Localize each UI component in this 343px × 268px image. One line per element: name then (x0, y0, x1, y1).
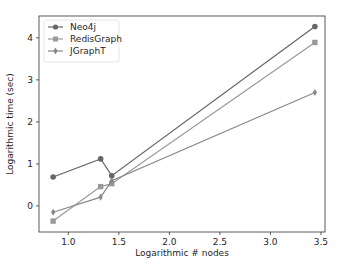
data-point (50, 174, 56, 180)
legend-label-redisgraph: RedisGraph (70, 34, 122, 44)
data-point (98, 184, 103, 189)
legend-label-neo4j: Neo4j (70, 22, 96, 32)
y-axis: 01234 (27, 33, 39, 211)
y-tick-label: 2 (27, 117, 33, 127)
line-chart: 1.01.52.02.53.03.5 01234 Logarithmic # n… (0, 0, 343, 268)
y-tick-label: 1 (27, 159, 33, 169)
x-tick-label: 2.0 (162, 237, 177, 247)
x-tick-label: 1.5 (112, 237, 126, 247)
x-axis-label: Logarithmic # nodes (135, 248, 229, 258)
x-tick-label: 2.5 (213, 237, 227, 247)
x-tick-label: 3.5 (314, 237, 328, 247)
x-axis: 1.01.52.02.53.03.5 (61, 232, 328, 247)
y-tick-label: 3 (27, 75, 33, 85)
y-tick-label: 4 (27, 33, 33, 43)
data-point (98, 156, 104, 162)
x-tick-label: 3.0 (263, 237, 278, 247)
data-point (50, 218, 55, 223)
data-point (312, 24, 318, 30)
data-point (312, 40, 317, 45)
x-tick-label: 1.0 (61, 237, 76, 247)
legend: Neo4j RedisGraph JGraphT (44, 20, 122, 62)
legend-label-jgrapht: JGraphT (69, 46, 106, 56)
square-marker-icon (53, 37, 58, 42)
y-axis-label: Logarithmic time (sec) (5, 73, 15, 175)
circle-marker-icon (53, 24, 58, 29)
y-tick-label: 0 (27, 201, 33, 211)
